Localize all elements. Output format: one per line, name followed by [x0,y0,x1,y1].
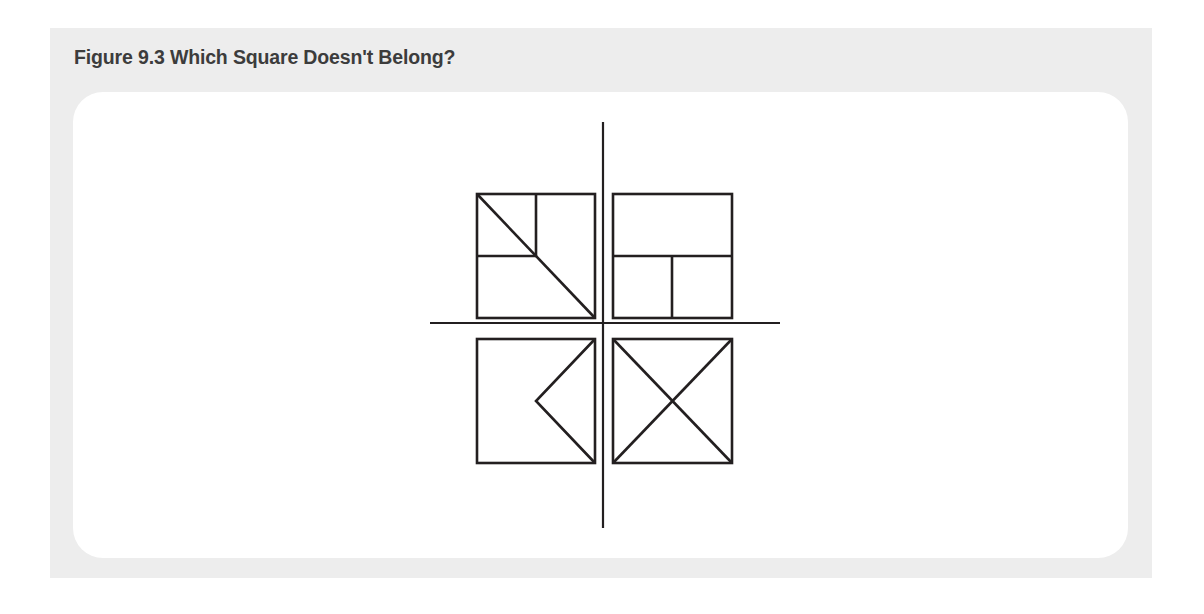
square-top-right [613,194,732,318]
square-bottom-left [477,339,595,463]
square-top-left [477,194,595,318]
figure-caption: Figure 9.3 Which Square Doesn't Belong? [74,46,455,69]
which-square-doesnt-belong-diagram [73,92,1128,558]
figure-panel: Figure 9.3 Which Square Doesn't Belong? [50,28,1152,578]
figure-card [73,92,1128,558]
square-bottom-right [613,339,732,463]
figure-root: Figure 9.3 Which Square Doesn't Belong? [0,0,1204,614]
axis-group [430,122,780,528]
square-bottom-left-chevron [536,339,595,463]
